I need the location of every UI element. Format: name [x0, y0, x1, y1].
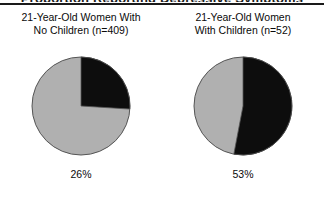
- pie-panels: 21-Year-Old Women With No Children (n=40…: [0, 8, 324, 205]
- clipped-header-title: Proportion Reporting Depressive Symptoms: [0, 0, 324, 2]
- pie-svg-no-children: [31, 56, 131, 156]
- pie-panel-no-children: 21-Year-Old Women With No Children (n=40…: [0, 8, 162, 205]
- pie-svg-with-children: [193, 56, 293, 156]
- figure-container: Proportion Reporting Depressive Symptoms…: [0, 0, 324, 205]
- header-divider: [0, 3, 324, 5]
- pie-value-label-with-children: 53%: [162, 168, 324, 181]
- pie-chart-no-children: [31, 56, 131, 156]
- pie-slice-highlight: [81, 57, 130, 109]
- pie-panel-with-children: 21-Year-Old Women With Children (n=52) 5…: [162, 8, 324, 205]
- panel-title-no-children: 21-Year-Old Women With No Children (n=40…: [0, 11, 162, 36]
- panel-title-with-children: 21-Year-Old Women With Children (n=52): [162, 11, 324, 36]
- pie-chart-with-children: [193, 56, 293, 156]
- pie-value-label-no-children: 26%: [0, 168, 162, 181]
